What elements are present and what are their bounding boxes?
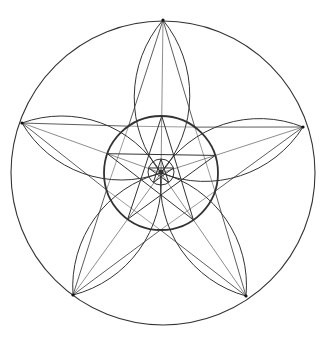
radial-line [73, 230, 160, 295]
radial-line [160, 230, 246, 296]
vertex-dot [301, 125, 304, 128]
vertex-dot [20, 121, 23, 124]
center-dot [159, 170, 164, 175]
radial-line [215, 127, 303, 191]
vertex-dot [161, 18, 164, 21]
radial-line [22, 123, 129, 126]
petal-axis-line [161, 173, 246, 296]
petal-axis-line [161, 20, 163, 173]
radial-line [215, 191, 246, 296]
radial-line [129, 20, 163, 126]
radial-line [22, 123, 107, 190]
radial-line [73, 190, 107, 295]
pentagonal-rose-diagram [0, 0, 325, 345]
petal-axis-line [161, 127, 303, 173]
vertex-dot [244, 294, 247, 297]
vertex-dot [71, 293, 74, 296]
petal-axis-line [73, 173, 161, 295]
petal-axis-line [22, 123, 161, 173]
radial-line [163, 20, 195, 127]
